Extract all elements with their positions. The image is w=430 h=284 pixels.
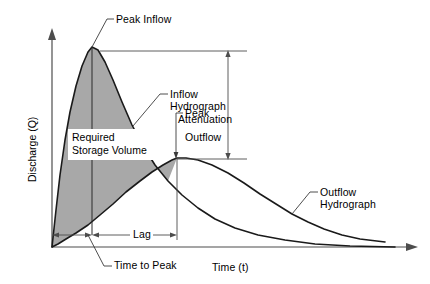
- y-axis-arrowhead: [48, 28, 56, 40]
- outflow-hydrograph-leader: [292, 192, 310, 214]
- required-storage-volume-line2: Storage Volume: [72, 144, 147, 156]
- x-axis-arrowhead: [406, 243, 418, 251]
- time-to-peak-leader: [88, 235, 104, 266]
- required-storage-volume-box: Required Storage Volume: [68, 129, 154, 160]
- lag-arrowhead-left: [92, 233, 99, 238]
- required-storage-volume-line1: Required: [72, 131, 115, 143]
- inflow-hydrograph-label-line1: Inflow: [170, 88, 198, 101]
- x-axis-label: Time (t): [212, 261, 249, 274]
- y-axis-label: Discharge (Q): [26, 117, 38, 182]
- peak-outflow-label-line1: Peak: [185, 107, 209, 120]
- peak-inflow-leader: [92, 19, 107, 47]
- lag-arrowhead-right: [170, 233, 177, 238]
- lag-label: Lag: [131, 228, 153, 241]
- hydrograph-figure: Discharge (Q) Time (t) Peak Inflow Inflo…: [0, 0, 430, 284]
- peak-inflow-label: Peak Inflow: [116, 13, 171, 26]
- time-to-peak-label: Time to Peak: [114, 259, 177, 272]
- peak-outflow-label-line2: Outflow: [185, 131, 221, 144]
- outflow-hydrograph-label-line2: Hydrograph: [320, 198, 376, 211]
- outflow-hydrograph-label-line1: Outflow: [320, 186, 356, 199]
- inflow-hydrograph-leader: [133, 94, 160, 126]
